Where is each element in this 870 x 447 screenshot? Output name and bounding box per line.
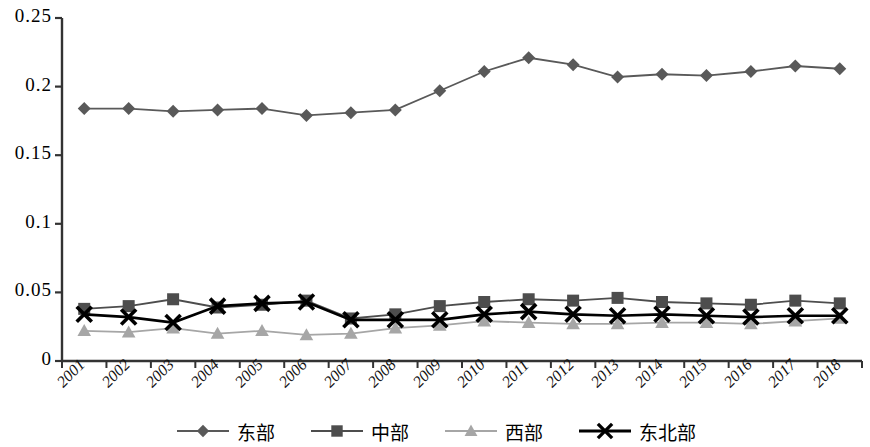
y-tick-label: 0 <box>0 348 52 370</box>
y-tick-label: 0.25 <box>0 5 52 27</box>
legend-label: 中部 <box>371 418 409 445</box>
legend-marker-triangle-icon <box>443 420 499 442</box>
legend-label: 东北部 <box>639 418 696 445</box>
legend-label: 西部 <box>505 418 543 445</box>
legend-entry-中部[interactable]: 中部 <box>309 418 409 445</box>
y-tick-label: 0.15 <box>0 142 52 164</box>
legend-entry-西部[interactable]: 西部 <box>443 418 543 445</box>
legend-entry-东北部[interactable]: 东北部 <box>577 418 696 445</box>
y-tick-label: 0.1 <box>0 211 52 233</box>
series-中部 <box>78 292 846 325</box>
legend-label: 东部 <box>237 418 275 445</box>
legend-marker-diamond-icon <box>175 420 231 442</box>
series-东北部 <box>77 295 848 331</box>
y-tick-label: 0.2 <box>0 74 52 96</box>
line-chart: 00.050.10.150.20.25 20012002200320042005… <box>0 0 870 447</box>
axis-lines <box>62 18 862 361</box>
series-东部 <box>78 51 847 122</box>
legend-marker-cross-x-icon <box>577 420 633 442</box>
legend-entry-东部[interactable]: 东部 <box>175 418 275 445</box>
y-tick-label: 0.05 <box>0 279 52 301</box>
legend-marker-square-icon <box>309 420 365 442</box>
chart-legend: 东部中部西部东北部 <box>0 415 870 447</box>
